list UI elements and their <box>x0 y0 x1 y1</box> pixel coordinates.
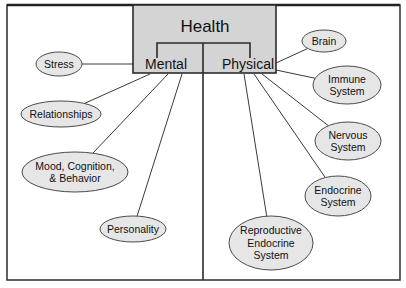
node-label-nervous: System <box>330 141 365 153</box>
node-brain: Brain <box>302 30 346 52</box>
node-label-relationships: Relationships <box>29 108 92 120</box>
node-relationships: Relationships <box>21 101 101 127</box>
node-immune: ImmuneSystem <box>313 66 381 104</box>
node-label-brain: Brain <box>312 35 337 47</box>
connector-relationships <box>84 74 150 103</box>
connector-personality <box>137 74 182 216</box>
node-personality: Personality <box>100 216 166 242</box>
branch-label-mental: Mental <box>145 56 187 72</box>
node-label-immune: Immune <box>328 73 366 85</box>
node-label-personality: Personality <box>107 223 160 235</box>
node-label-endocrine: Endocrine <box>314 184 361 196</box>
node-label-endocrine: System <box>320 196 355 208</box>
node-label-reproductive: System <box>253 249 288 261</box>
node-stress: Stress <box>36 52 82 76</box>
connector-immune <box>276 70 315 78</box>
connector-brain <box>276 48 308 63</box>
node-label-immune: System <box>329 85 364 97</box>
branch-label-physical: Physical <box>222 56 274 72</box>
node-endocrine: EndocrineSystem <box>305 176 371 216</box>
health-title: Health <box>180 17 229 36</box>
node-mood: Mood, Cognition,& Behavior <box>22 152 128 192</box>
node-label-stress: Stress <box>44 58 74 70</box>
connector-mood <box>93 74 168 153</box>
health-diagram: Health Mental Physical StressRelationshi… <box>0 0 406 288</box>
node-nervous: NervousSystem <box>315 122 381 160</box>
node-reproductive: ReproductiveEndocrineSystem <box>229 216 313 270</box>
node-label-mood: Mood, Cognition, <box>35 160 114 172</box>
connector-reproductive <box>244 74 267 216</box>
node-label-mood: & Behavior <box>49 172 101 184</box>
node-label-reproductive: Reproductive <box>240 224 302 236</box>
node-label-nervous: Nervous <box>328 129 367 141</box>
node-label-reproductive: Endocrine <box>247 237 294 249</box>
